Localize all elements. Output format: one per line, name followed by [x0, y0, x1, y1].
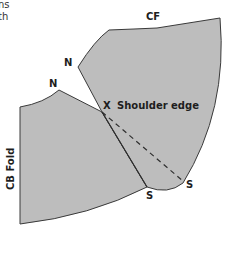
shoulder-edge-label: Shoulder edge: [117, 100, 199, 111]
pattern-diagram: ns th CF N N X Shoulder edge S S CB Fold: [0, 0, 225, 270]
cb-fold-label: CB Fold: [5, 148, 16, 190]
s-label-dashed: S: [186, 179, 193, 190]
s-label-side: S: [146, 190, 153, 201]
caption-line-1: ns: [0, 0, 10, 10]
notch-label-back: N: [49, 78, 57, 89]
notch-label-front: N: [64, 57, 72, 68]
x-marker-label: X: [103, 100, 111, 111]
caption-line-2: th: [0, 11, 8, 22]
cf-label: CF: [146, 11, 160, 22]
